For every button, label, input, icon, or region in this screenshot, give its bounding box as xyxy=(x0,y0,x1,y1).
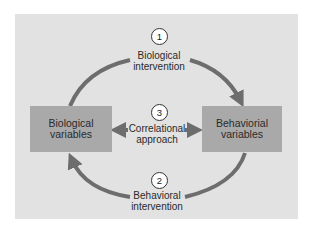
node-behavioral-variables: Behaviorial variables xyxy=(202,106,282,152)
node-biological-variables: Biological variables xyxy=(30,106,112,152)
node-label-line2: variables xyxy=(49,129,94,140)
label-biological-intervention: Biological intervention xyxy=(109,50,209,72)
approach-number-3: 3 xyxy=(151,104,168,121)
label-correlational-approach: Correlational approach xyxy=(107,123,207,145)
label-line1: Biological xyxy=(109,50,209,61)
node-label-line2: variables xyxy=(216,129,268,140)
label-behavioral-intervention: Behavioral intervention xyxy=(107,190,207,212)
label-line2: approach xyxy=(107,134,207,145)
approach-number-2: 2 xyxy=(151,172,168,189)
label-line2: intervention xyxy=(109,61,209,72)
label-line1: Correlational xyxy=(107,123,207,134)
label-line2: intervention xyxy=(107,201,207,212)
approach-number-1: 1 xyxy=(151,28,168,45)
label-line1: Behavioral xyxy=(107,190,207,201)
